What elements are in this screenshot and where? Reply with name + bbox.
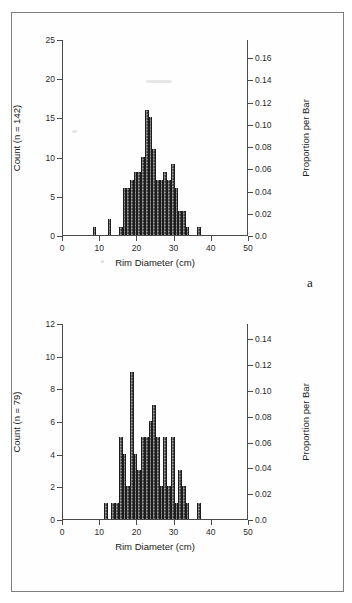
plot-area-b: 0 2 4 6 8 10 12 0.0 0.02 0.04 0.06 0.08 … (62, 324, 248, 520)
y-tick-right-b (248, 417, 253, 418)
histogram-bar (104, 503, 108, 519)
y-tick-right-b (248, 365, 253, 366)
y-tick-label-left-b: 6 (50, 418, 55, 427)
y-tick-right-b (248, 494, 253, 495)
y-axis-title-left-b: Count (n = 79) (11, 392, 22, 453)
x-tick-b (248, 520, 249, 525)
x-tick-label-b: 40 (206, 528, 215, 537)
figure-panel-a: 0 5 10 15 20 25 0.0 0.02 0.04 0.06 0.08 … (0, 0, 352, 300)
histogram-bars-a (63, 40, 247, 235)
x-tick-label-a: 20 (132, 244, 141, 253)
x-tick-a (211, 236, 212, 241)
y-axis-title-right-a: Proportion per Bar (301, 99, 312, 177)
y-tick-left-a (57, 197, 62, 198)
y-tick-label-right-a: 0.12 (255, 98, 272, 107)
y-tick-right-a (248, 125, 253, 126)
y-tick-left-b (57, 357, 62, 358)
histogram-bar (93, 227, 97, 235)
y-tick-label-left-b: 12 (46, 320, 55, 329)
y-tick-label-left-a: 25 (46, 36, 55, 45)
x-tick-label-a: 40 (206, 244, 215, 253)
y-tick-label-right-a: 0.04 (255, 187, 272, 196)
y-tick-label-left-a: 10 (46, 153, 55, 162)
x-tick-label-b: 30 (169, 528, 178, 537)
y-tick-label-right-b: 0.12 (255, 361, 272, 370)
y-axis-title-right-b: Proportion per Bar (301, 383, 312, 461)
y-tick-label-left-b: 0 (50, 516, 55, 525)
y-tick-label-right-b: 0.14 (255, 335, 272, 344)
histogram-bar (186, 227, 190, 235)
y-tick-label-left-b: 2 (50, 483, 55, 492)
y-tick-label-left-a: 5 (50, 193, 55, 202)
y-tick-right-a (248, 169, 253, 170)
x-tick-label-a: 30 (169, 244, 178, 253)
histogram-bars-b (63, 324, 247, 519)
y-tick-left-b (57, 389, 62, 390)
y-axis-right-b (247, 324, 248, 520)
x-tick-b (62, 520, 63, 525)
y-tick-label-left-b: 10 (46, 352, 55, 361)
x-tick-a (174, 236, 175, 241)
y-tick-left-a (57, 158, 62, 159)
x-tick-label-b: 20 (132, 528, 141, 537)
y-tick-left-b (57, 422, 62, 423)
x-tick-b (99, 520, 100, 525)
y-tick-right-a (248, 80, 253, 81)
y-tick-label-right-a: 0.14 (255, 76, 272, 85)
x-axis-title-a: Rim Diameter (cm) (115, 257, 195, 268)
x-tick-a (62, 236, 63, 241)
y-tick-label-right-b: 0.08 (255, 412, 272, 421)
y-tick-label-right-a: 0.10 (255, 120, 272, 129)
y-tick-right-a (248, 214, 253, 215)
x-tick-label-a: 50 (243, 244, 252, 253)
y-tick-label-left-b: 8 (50, 385, 55, 394)
x-tick-label-b: 50 (243, 528, 252, 537)
y-tick-label-right-b: 0.10 (255, 387, 272, 396)
x-axis-b (62, 519, 248, 520)
histogram-bar (197, 227, 201, 235)
y-tick-left-b (57, 324, 62, 325)
y-tick-right-b (248, 468, 253, 469)
y-tick-label-left-a: 15 (46, 114, 55, 123)
x-tick-b (211, 520, 212, 525)
y-tick-right-b (248, 391, 253, 392)
histogram-bar (197, 503, 201, 519)
histogram-bar (108, 219, 112, 235)
x-axis-a (62, 235, 248, 236)
x-tick-b (136, 520, 137, 525)
y-tick-label-right-a: 0.06 (255, 165, 272, 174)
y-tick-left-b (57, 455, 62, 456)
histogram-bar (186, 503, 190, 519)
y-tick-label-right-b: 0.04 (255, 464, 272, 473)
y-tick-left-a (57, 79, 62, 80)
x-tick-a (99, 236, 100, 241)
y-tick-left-a (57, 40, 62, 41)
y-axis-title-left-a: Count (n = 142) (11, 105, 22, 171)
y-tick-right-a (248, 147, 253, 148)
y-tick-label-right-b: 0.06 (255, 438, 272, 447)
y-tick-right-a (248, 58, 253, 59)
y-tick-label-left-a: 0 (50, 232, 55, 241)
y-axis-right-a (247, 40, 248, 236)
y-tick-label-right-b: 0.02 (255, 490, 272, 499)
x-tick-label-b: 10 (94, 528, 103, 537)
y-tick-right-b (248, 339, 253, 340)
y-tick-left-b (57, 487, 62, 488)
y-tick-right-a (248, 192, 253, 193)
x-tick-label-a: 10 (94, 244, 103, 253)
y-tick-label-left-b: 4 (50, 450, 55, 459)
figure-panel-b: 0 2 4 6 8 10 12 0.0 0.02 0.04 0.06 0.08 … (0, 300, 352, 603)
y-tick-label-right-a: 0.08 (255, 143, 272, 152)
x-tick-label-b: 0 (60, 528, 65, 537)
x-tick-b (174, 520, 175, 525)
y-tick-label-right-a: 0.16 (255, 54, 272, 63)
x-tick-a (248, 236, 249, 241)
plot-area-a: 0 5 10 15 20 25 0.0 0.02 0.04 0.06 0.08 … (62, 40, 248, 236)
y-tick-label-right-a: 0.0 (255, 232, 267, 241)
x-tick-a (136, 236, 137, 241)
y-tick-label-right-b: 0.0 (255, 516, 267, 525)
x-tick-label-a: 0 (60, 244, 65, 253)
y-tick-label-left-a: 20 (46, 75, 55, 84)
y-tick-left-a (57, 118, 62, 119)
y-tick-label-right-a: 0.02 (255, 209, 272, 218)
